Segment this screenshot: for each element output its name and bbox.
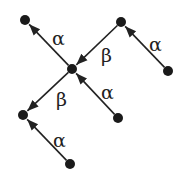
node-dot [18, 110, 28, 120]
edges-layer [27, 24, 164, 160]
edge-label: α [53, 129, 66, 151]
node-dot [67, 64, 77, 74]
node-dot [113, 113, 123, 123]
edge-label: α [52, 27, 65, 49]
node-dot [65, 159, 75, 169]
edge-label: β [101, 44, 112, 66]
edge-label: β [56, 88, 67, 110]
tree-diagram: αβααβα [0, 0, 184, 182]
edge-label: α [101, 81, 114, 103]
edge-label: α [149, 33, 162, 55]
node-dot [20, 15, 30, 25]
labels-layer: αβααβα [52, 27, 162, 151]
node-dot [163, 66, 173, 76]
diagram-canvas: αβααβα [0, 0, 184, 182]
node-dot [116, 17, 126, 27]
